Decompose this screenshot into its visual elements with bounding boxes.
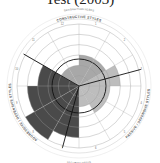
sector-number: 12 — [61, 22, 65, 26]
circumplex-chart: 123456789101112CONSTRUCTIVE STYLESPASSIV… — [0, 0, 160, 163]
sector-number: 1 — [95, 22, 97, 26]
sector-number: 3 — [141, 67, 143, 71]
sector-number: 11 — [32, 38, 35, 42]
sector-number: 10 — [15, 67, 19, 71]
group-label: SECURITY NEEDS — [67, 160, 92, 163]
group-label: PASSIVE / DEFENSIVE STYLES — [125, 88, 151, 139]
group-label: CONSTRUCTIVE STYLES — [56, 15, 103, 23]
sector-number: 6 — [95, 146, 97, 150]
sector-number: 5 — [124, 130, 126, 134]
sector-number: 7 — [62, 146, 64, 150]
group-label: SATISFACTION NEEDS — [63, 7, 94, 13]
sector-number: 9 — [16, 101, 18, 105]
sector-number: 4 — [141, 101, 143, 105]
sector-number: 8 — [33, 130, 35, 134]
sector-number: 2 — [124, 38, 126, 42]
